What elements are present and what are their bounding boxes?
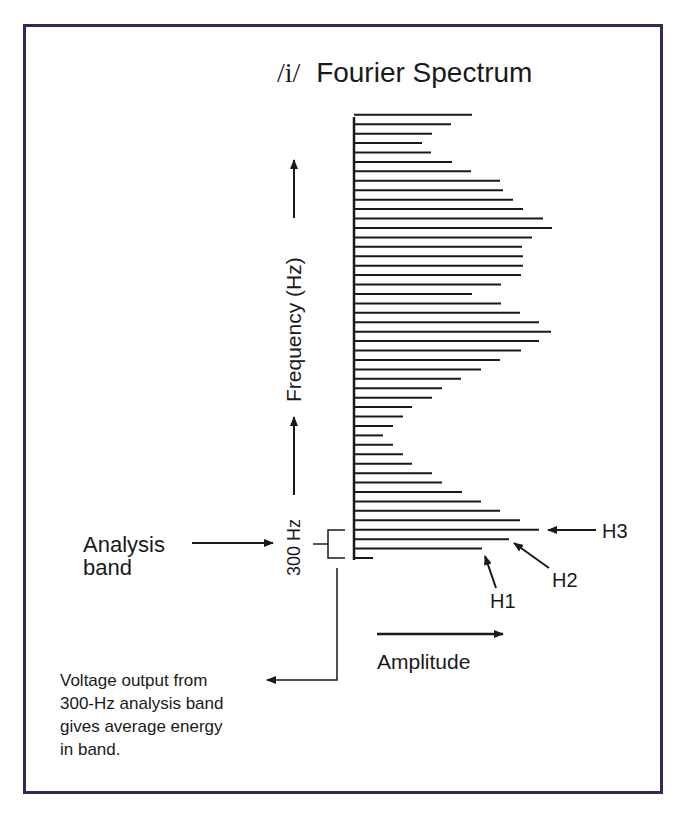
voltage-note-line4: in band. <box>60 740 121 759</box>
h3-label: H3 <box>602 520 628 542</box>
bandwidth-label: 300 Hz <box>284 519 304 576</box>
h2-label: H2 <box>552 569 578 591</box>
frequency-axis-label: Frequency (Hz) <box>282 257 305 402</box>
h1-arrow-icon <box>485 556 496 588</box>
h2-arrow-icon <box>514 543 549 568</box>
analysis-band-label-line2: band <box>83 555 132 580</box>
title-text: Fourier Spectrum <box>316 57 532 88</box>
spectrum-bars <box>354 115 552 558</box>
voltage-note-line3: gives average energy <box>60 717 223 736</box>
phoneme-label: /i/ <box>277 57 301 88</box>
voltage-note-line2: 300-Hz analysis band <box>60 694 223 713</box>
analysis-band-label-line1: Analysis <box>83 532 165 557</box>
chart-title: /i/ Fourier Spectrum <box>277 57 532 88</box>
amplitude-axis-label: Amplitude <box>377 650 470 673</box>
voltage-note-line1: Voltage output from <box>60 671 207 690</box>
voltage-output-arrow-icon <box>267 568 337 680</box>
spectrum-diagram: /i/ Fourier Spectrum Frequency (Hz) 300 … <box>0 0 690 817</box>
h1-label: H1 <box>490 590 516 612</box>
analysis-band-bracket <box>328 530 345 558</box>
